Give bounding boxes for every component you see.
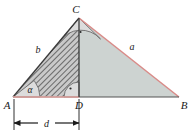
label-vertex-a: A (3, 99, 11, 111)
angle-right-C-dot (79, 31, 81, 33)
label-dimension-d: d (44, 118, 50, 129)
label-vertex-d: D (74, 99, 83, 111)
label-side-b: b (36, 44, 41, 55)
label-side-a: a (130, 41, 135, 52)
angle-right-D-dot (69, 87, 71, 89)
geometry-svg: C A D B b a α d (0, 0, 194, 137)
region-group (13, 18, 179, 97)
geometry-figure: C A D B b a α d (0, 0, 194, 137)
label-vertex-b: B (181, 99, 188, 111)
label-vertex-c: C (72, 3, 80, 15)
